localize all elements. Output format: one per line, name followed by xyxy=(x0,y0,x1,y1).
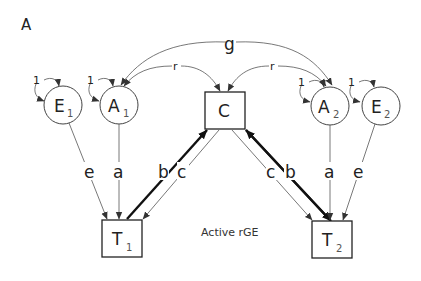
path-t1-c-label: b xyxy=(158,162,169,182)
node-e2: E 2 xyxy=(362,87,400,125)
node-t2-label: T xyxy=(321,230,333,250)
a2-variance-label: 1 xyxy=(298,76,305,89)
r-label-right: r xyxy=(270,60,275,73)
g-label: g xyxy=(224,34,235,54)
e2-variance-label: 1 xyxy=(348,76,355,89)
path-e2-t2-label: e xyxy=(353,162,363,182)
node-a1: A 1 xyxy=(100,86,138,124)
path-e2-to-t2: e xyxy=(343,124,375,220)
r-label-left: r xyxy=(173,60,178,73)
path-a1-t1-label: a xyxy=(113,162,123,182)
path-a2-to-t2: a xyxy=(323,125,337,220)
node-c-label: C xyxy=(218,101,230,121)
r-correlation-arrow-right: r xyxy=(228,60,326,91)
node-a1-label: A xyxy=(108,96,120,116)
node-t1-subscript: 1 xyxy=(126,242,132,253)
node-c: C xyxy=(205,92,245,129)
r-correlation-arrow-left: r xyxy=(124,60,220,91)
node-a1-subscript: 1 xyxy=(123,108,129,119)
node-e1: E 1 xyxy=(44,86,82,124)
path-c-t2-label: c xyxy=(266,162,275,182)
a1-variance-label: 1 xyxy=(87,74,94,87)
node-t1: T 1 xyxy=(102,220,142,257)
node-e2-subscript: 2 xyxy=(384,109,390,120)
path-e1-t1-label: e xyxy=(84,162,94,182)
node-e2-label: E xyxy=(371,97,382,117)
node-t2-subscript: 2 xyxy=(336,243,342,254)
path-c-to-t2: c xyxy=(232,130,312,220)
node-e1-label: E xyxy=(54,96,65,116)
path-a1-to-t1: a xyxy=(112,124,126,219)
panel-label: A xyxy=(21,16,32,34)
path-a2-t2-label: a xyxy=(324,162,334,182)
e1-variance-label: 1 xyxy=(33,74,40,87)
node-t2: T 2 xyxy=(312,221,352,258)
path-c-to-t1: c xyxy=(143,130,219,219)
path-t1-to-c-bold: b xyxy=(127,130,207,219)
path-e1-to-t1: e xyxy=(69,123,107,219)
node-e1-subscript: 1 xyxy=(67,108,73,119)
rge-path-diagram: A g r r E 1 1 A 1 1 C xyxy=(0,0,421,281)
path-c-t1-label: c xyxy=(177,162,186,182)
node-a2: A 2 xyxy=(311,87,349,125)
node-a2-subscript: 2 xyxy=(333,109,339,120)
node-t1-label: T xyxy=(111,229,123,249)
node-a2-label: A xyxy=(318,97,330,117)
path-t2-c-label: b xyxy=(285,162,296,182)
diagram-caption: Active rGE xyxy=(201,226,259,239)
path-t2-to-c-bold: b xyxy=(246,130,331,221)
